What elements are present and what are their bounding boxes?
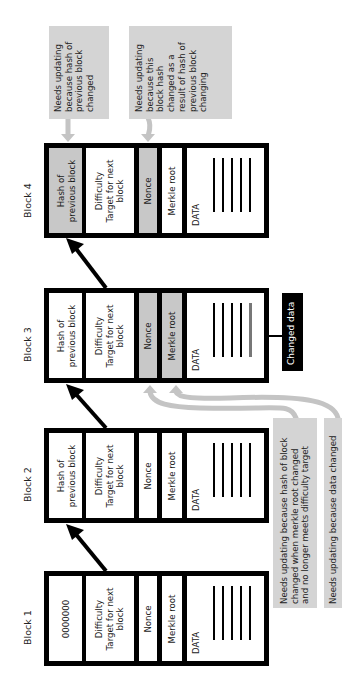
- block-2: Hash ofprevious block DifficultyTarget f…: [44, 428, 269, 523]
- data-line: [240, 443, 242, 497]
- merkle-root-field: Merkle root: [162, 433, 182, 518]
- hash-field: 0000000: [49, 576, 82, 661]
- data-line: [249, 158, 251, 212]
- hash-field: Hash ofprevious block: [49, 148, 82, 233]
- data-line: [222, 303, 224, 357]
- data-line: [240, 586, 242, 640]
- data-line: [240, 158, 242, 212]
- difficulty-field: DifficultyTarget for nextblock: [86, 433, 134, 518]
- block-4: Hash ofprevious block DifficultyTarget f…: [44, 143, 269, 238]
- block-1-label: Block 1: [22, 610, 33, 645]
- data-field: DATA: [187, 576, 264, 661]
- hash-field: Hash ofprevious block: [49, 293, 82, 378]
- block-4-label: Block 4: [22, 183, 33, 218]
- note-block3-nonce: Needs updating because hash of block cha…: [273, 418, 317, 608]
- data-line: [231, 586, 233, 640]
- data-line: [213, 158, 215, 212]
- data-line: [222, 158, 224, 212]
- data-line: [213, 443, 215, 497]
- data-line: [213, 303, 215, 357]
- difficulty-field: DifficultyTarget for nextblock: [86, 293, 134, 378]
- block-2-label: Block 2: [22, 467, 33, 502]
- data-line: [249, 443, 251, 497]
- changed-data-line: [249, 303, 252, 357]
- note-block3-merkle: Needs updating because data changed: [324, 418, 342, 608]
- block-1: 0000000 DifficultyTarget for nextblock N…: [44, 571, 269, 666]
- note-block4-nonce: Needs updating because this block hash c…: [129, 26, 232, 119]
- difficulty-field: DifficultyTarget for nextblock: [86, 576, 134, 661]
- merkle-root-field: Merkle root: [162, 148, 182, 233]
- data-line: [249, 586, 251, 640]
- data-field: DATA: [187, 293, 264, 378]
- block-3: Hash ofprevious block DifficultyTarget f…: [44, 288, 269, 383]
- nonce-field: Nonce: [139, 293, 157, 378]
- data-field: DATA: [187, 433, 264, 518]
- nonce-field: Nonce: [139, 576, 157, 661]
- changed-data-label: Changed data: [282, 293, 303, 371]
- nonce-field: Nonce: [139, 148, 157, 233]
- merkle-root-field: Merkle root: [162, 576, 182, 661]
- data-line: [222, 586, 224, 640]
- data-line: [213, 586, 215, 640]
- data-line: [240, 303, 242, 357]
- nonce-field: Nonce: [139, 433, 157, 518]
- hash-field: Hash ofprevious block: [49, 433, 82, 518]
- data-line: [231, 303, 233, 357]
- merkle-arrows: [180, 181, 193, 627]
- data-line: [231, 443, 233, 497]
- merkle-root-field: Merkle root: [162, 293, 182, 378]
- data-line: [222, 443, 224, 497]
- note-block4-hash: Needs updating because hash of previous …: [49, 26, 109, 119]
- data-line: [231, 158, 233, 212]
- difficulty-field: DifficultyTarget for nextblock: [86, 148, 134, 233]
- block-3-label: Block 3: [22, 327, 33, 362]
- data-field: DATA: [187, 148, 264, 233]
